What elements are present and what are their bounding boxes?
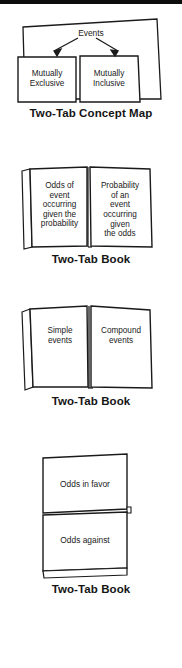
figure-two-tab-concept-map: Events Mutually Exclusive Mutually Inclu…	[0, 14, 182, 119]
two-tab-book-favor-svg	[0, 452, 182, 582]
two-tab-book-odds-artwork: Odds of event occurring given the probab…	[0, 162, 182, 252]
book-events-left-line-1: Simple	[47, 326, 72, 336]
foldable-diagrams-page: Events Mutually Exclusive Mutually Inclu…	[0, 0, 182, 668]
book-favor-bottom-label-text: Odds against	[60, 535, 109, 545]
concept-map-header-label-text: Events	[78, 28, 104, 38]
book-events-right-line-2: events	[109, 336, 133, 346]
concept-map-left-tab-label: Mutually Exclusive	[19, 66, 75, 92]
two-tab-book-events-artwork: Simple events Compound events	[0, 302, 182, 394]
book-favor-top-label: Odds in favor	[44, 477, 126, 491]
book-odds-left-line-1: Odds of	[45, 181, 74, 191]
book-events-left-label: Simple events	[33, 324, 87, 348]
book-odds-right-line-1: Probability	[101, 181, 139, 191]
figure-caption: Two-Tab Book	[0, 395, 182, 407]
book-odds-right-label: Probability of an event occurring given …	[91, 174, 149, 246]
right-tab-line-1: Mutually	[94, 69, 125, 79]
book-odds-right-line-2: of an	[111, 191, 129, 201]
book-odds-right-line-3: event	[110, 200, 130, 210]
concept-map-header-label: Events	[54, 26, 128, 40]
two-tab-book-events-svg	[0, 302, 182, 394]
book-events-left-line-2: events	[48, 336, 72, 346]
book-odds-right-line-5: given	[110, 220, 130, 230]
figure-caption: Two-Tab Book	[0, 583, 182, 595]
book-events-right-line-1: Compound	[101, 326, 141, 336]
figure-two-tab-book-simple-compound: Simple events Compound events Two-Tab Bo…	[0, 302, 182, 407]
book-odds-left-label: Odds of event occurring given the probab…	[33, 174, 86, 236]
concept-map-artwork: Events Mutually Exclusive Mutually Inclu…	[0, 14, 182, 106]
two-tab-book-favor-artwork: Odds in favor Odds against	[0, 452, 182, 582]
figure-two-tab-book-odds-favor-against: Odds in favor Odds against Two-Tab Book	[0, 452, 182, 595]
book-events-right-label: Compound events	[92, 324, 150, 348]
book-odds-right-line-6: the odds	[104, 229, 135, 239]
figure-two-tab-book-odds-probability: Odds of event occurring given the probab…	[0, 162, 182, 265]
figure-caption: Two-Tab Book	[0, 253, 182, 265]
left-tab-line-2: Exclusive	[30, 79, 65, 89]
concept-map-right-tab-label: Mutually Inclusive	[81, 66, 137, 92]
book-favor-bottom-label: Odds against	[44, 533, 126, 547]
book-odds-left-line-5: probability	[41, 219, 78, 229]
book-odds-left-line-2: event	[49, 191, 69, 201]
book-odds-left-line-4: given the	[43, 210, 76, 220]
top-rule-divider	[0, 0, 182, 4]
book-odds-left-line-3: occurring	[43, 200, 77, 210]
figure-caption: Two-Tab Concept Map	[0, 107, 182, 119]
right-tab-line-2: Inclusive	[93, 79, 125, 89]
book-favor-top-label-text: Odds in favor	[60, 479, 110, 489]
left-tab-line-1: Mutually	[32, 69, 63, 79]
book-odds-right-line-4: occurring	[103, 210, 137, 220]
